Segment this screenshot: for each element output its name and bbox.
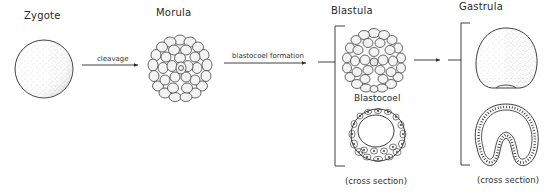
blastula-title: Blastula — [331, 6, 373, 16]
blastocoel-label: Blastocoel — [354, 94, 400, 103]
zygote-illustration — [15, 40, 80, 100]
diagram-drawing — [0, 0, 555, 194]
blastula-bracket — [335, 26, 345, 166]
morula-title: Morula — [156, 8, 191, 18]
gastrula-bracket — [461, 23, 470, 165]
cleavage-label: cleavage — [97, 56, 129, 63]
embryo-development-diagram: Zygote Morula Blastula Gastrula cleavage… — [0, 0, 555, 194]
zygote-title: Zygote — [24, 11, 61, 21]
gastrula-illustration — [476, 28, 540, 90]
morula-illustration — [148, 35, 212, 102]
gastrula-cross-section-caption: (cross section) — [477, 176, 539, 185]
blastula-illustration — [343, 29, 406, 93]
blastocoel-formation-label: blastocoel formation — [232, 53, 304, 60]
gastrula-title: Gastrula — [459, 2, 503, 12]
blastula-cross-section — [349, 109, 406, 162]
gastrula-cross-section — [475, 104, 538, 166]
blastula-cross-section-caption: (cross section) — [345, 177, 407, 186]
